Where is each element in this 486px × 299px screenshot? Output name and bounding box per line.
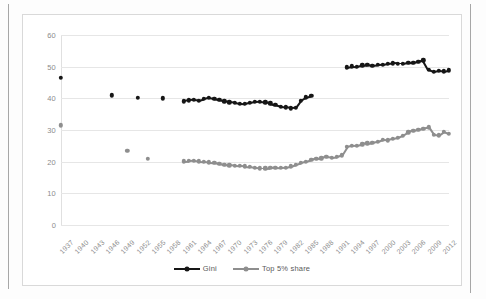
y-axis-tick-label: 30 bbox=[47, 126, 56, 135]
x-axis-tick-label: 1991 bbox=[334, 239, 351, 256]
x-axis-tick-label: 2003 bbox=[395, 239, 412, 256]
x-axis-tick-label: 1946 bbox=[104, 239, 121, 256]
chart-legend: GiniTop 5% share bbox=[23, 264, 461, 273]
x-axis-tick-label: 1943 bbox=[89, 239, 106, 256]
gridline bbox=[61, 67, 449, 68]
y-axis-tick-label: 20 bbox=[47, 157, 56, 166]
gridline bbox=[61, 35, 449, 36]
x-axis-tick-label: 1997 bbox=[365, 239, 382, 256]
plot-area: 0102030405060 bbox=[61, 35, 449, 225]
x-axis-tick-label: 1967 bbox=[211, 239, 228, 256]
page-edge-rule-left bbox=[8, 4, 9, 289]
data-point bbox=[447, 132, 451, 136]
y-axis-tick-label: 40 bbox=[47, 94, 56, 103]
gridline bbox=[61, 225, 449, 226]
y-axis-tick-label: 10 bbox=[47, 189, 56, 198]
legend-label: Top 5% share bbox=[262, 264, 310, 273]
x-axis-tick-label: 1955 bbox=[150, 239, 167, 256]
x-axis-tick-label: 2012 bbox=[441, 239, 458, 256]
x-axis-tick-label: 1985 bbox=[303, 239, 320, 256]
gridline bbox=[61, 193, 449, 194]
x-axis-tick-label: 1964 bbox=[196, 239, 213, 256]
x-axis-tick-label: 2000 bbox=[380, 239, 397, 256]
legend-item[interactable]: Gini bbox=[174, 264, 217, 273]
legend-marker-icon bbox=[174, 265, 200, 273]
x-axis-tick-label: 1973 bbox=[242, 239, 259, 256]
x-axis-tick-label: 1976 bbox=[257, 239, 274, 256]
y-axis-tick-label: 50 bbox=[47, 62, 56, 71]
x-axis-tick-label: 1970 bbox=[227, 239, 244, 256]
legend-label: Gini bbox=[203, 264, 217, 273]
data-point bbox=[447, 68, 451, 72]
x-axis-tick-label: 1949 bbox=[119, 239, 136, 256]
chart-page: 0102030405060 19371940194319461949195219… bbox=[0, 0, 486, 299]
gridline bbox=[61, 162, 449, 163]
gridline bbox=[61, 130, 449, 131]
x-axis-tick-label: 1940 bbox=[74, 239, 91, 256]
x-axis-tick-label: 1982 bbox=[288, 239, 305, 256]
legend-marker-icon bbox=[233, 265, 259, 273]
x-axis-tick-label: 1958 bbox=[165, 239, 182, 256]
x-axis-tick-label: 1988 bbox=[319, 239, 336, 256]
chart-frame: 0102030405060 19371940194319461949195219… bbox=[22, 14, 462, 286]
legend-item[interactable]: Top 5% share bbox=[233, 264, 310, 273]
x-axis-tick-label: 1937 bbox=[58, 239, 75, 256]
x-axis-tick-label: 2006 bbox=[410, 239, 427, 256]
x-axis-tick-label: 1961 bbox=[181, 239, 198, 256]
y-axis-tick-label: 60 bbox=[47, 31, 56, 40]
x-axis-tick-label: 1994 bbox=[349, 239, 366, 256]
x-axis-tick-label: 1979 bbox=[273, 239, 290, 256]
page-edge-rule-right bbox=[470, 4, 471, 293]
x-axis-tick-label: 1952 bbox=[135, 239, 152, 256]
y-axis-tick-label: 0 bbox=[52, 221, 56, 230]
x-axis-tick-label: 2009 bbox=[426, 239, 443, 256]
